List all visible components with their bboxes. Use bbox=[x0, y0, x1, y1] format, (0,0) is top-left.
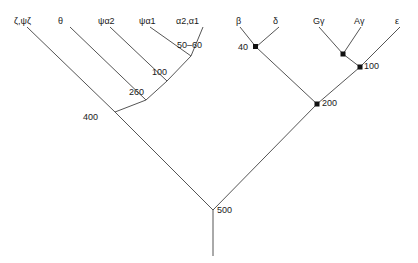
tip-label-a-gamma: Aγ bbox=[354, 17, 365, 26]
node-marker-200 bbox=[315, 102, 320, 107]
branch-100-to-260 bbox=[146, 81, 167, 100]
node-label-260: 260 bbox=[129, 88, 144, 97]
node-marker-gamma-junction bbox=[341, 52, 346, 57]
tree-branch-lines bbox=[0, 0, 418, 263]
tip-label-g-gamma: Gγ bbox=[313, 17, 325, 26]
node-label-100-left: 100 bbox=[152, 68, 167, 77]
branch-5060-to-100 bbox=[167, 56, 191, 81]
node-marker-40 bbox=[253, 44, 258, 49]
tip-label-delta: δ bbox=[273, 17, 278, 26]
branch-200-to-root bbox=[213, 104, 317, 210]
node-label-500-root: 500 bbox=[217, 206, 232, 215]
phylogenetic-tree-diagram: ζ,ψζ θ ψα2 ψα1 α2,α1 50–60 100 260 400 β… bbox=[0, 0, 418, 263]
tip-label-beta: β bbox=[236, 17, 241, 26]
tip-label-alpha-2-alpha-1: α2,α1 bbox=[176, 17, 199, 26]
node-marker-100 bbox=[358, 65, 363, 70]
branch-zeta-to-400 bbox=[27, 27, 115, 112]
branch-260-to-400 bbox=[115, 100, 146, 112]
branch-delta-to-40 bbox=[256, 27, 279, 47]
branch-ggamma-to-junction bbox=[319, 27, 343, 54]
node-label-40: 40 bbox=[238, 43, 248, 52]
tip-label-epsilon: ε bbox=[395, 17, 399, 26]
node-label-100-right: 100 bbox=[364, 62, 379, 71]
node-label-50-60: 50–60 bbox=[177, 41, 202, 50]
branch-400-to-root bbox=[115, 112, 213, 210]
tip-label-theta: θ bbox=[58, 17, 63, 26]
tip-label-zeta: ζ,ψζ bbox=[14, 17, 31, 26]
node-label-400: 400 bbox=[83, 113, 98, 122]
tip-label-psi-alpha-1: ψα1 bbox=[139, 17, 156, 26]
tip-label-psi-alpha-2: ψα2 bbox=[98, 17, 115, 26]
branch-agamma-to-junction bbox=[343, 27, 361, 54]
node-label-200: 200 bbox=[322, 99, 337, 108]
branch-junction-to-100 bbox=[343, 54, 360, 67]
branch-40-to-200 bbox=[256, 47, 317, 104]
